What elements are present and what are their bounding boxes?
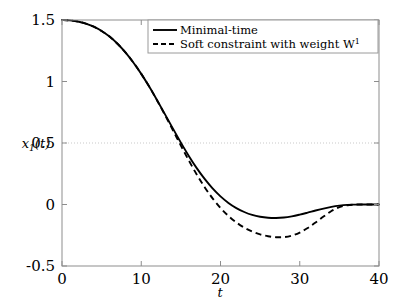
y-tick-label--0.5: -0.5 xyxy=(26,257,55,275)
x-tick-label-0: 0 xyxy=(57,270,67,288)
x-tick-label-40: 40 xyxy=(369,270,388,288)
legend-label-minimal-time: Minimal-time xyxy=(180,23,258,37)
x-axis-title: t xyxy=(217,285,223,300)
y-tick-label-1: 1 xyxy=(45,73,55,91)
y-tick-label-1.5: 1.5 xyxy=(31,11,55,29)
y-axis-title: x1(t) xyxy=(22,136,50,153)
legend-label-soft-constraint: Soft constraint with weight W1 xyxy=(180,37,360,51)
x-tick-label-10: 10 xyxy=(132,270,151,288)
y-tick-label-0: 0 xyxy=(45,196,55,214)
x-tick-label-30: 30 xyxy=(290,270,309,288)
figure-container: 010203040 -0.500.511.5 t x1(t) Minimal-t… xyxy=(0,0,395,308)
legend: Minimal-time Soft constraint with weight… xyxy=(148,20,378,53)
line-chart: 010203040 -0.500.511.5 t x1(t) Minimal-t… xyxy=(0,0,395,308)
